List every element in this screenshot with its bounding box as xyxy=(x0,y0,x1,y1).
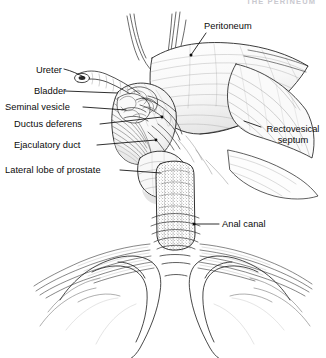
label-rectovesical-septum: Rectovesical septum xyxy=(263,124,323,145)
label-lateral-lobe: Lateral lobe of prostate xyxy=(5,165,101,176)
label-anal-canal: Anal canal xyxy=(222,219,266,230)
label-seminal-vesicle: Seminal vesicle xyxy=(5,102,70,113)
label-bladder: Bladder xyxy=(34,86,66,97)
anatomical-figure: THE PERINEUM xyxy=(0,0,326,358)
label-ductus-deferens: Ductus deferens xyxy=(14,119,82,130)
label-peritoneum: Peritoneum xyxy=(204,21,252,32)
label-ureter: Ureter xyxy=(36,65,62,76)
illustration xyxy=(0,0,326,358)
label-ejaculatory-duct: Ejaculatory duct xyxy=(14,140,80,151)
